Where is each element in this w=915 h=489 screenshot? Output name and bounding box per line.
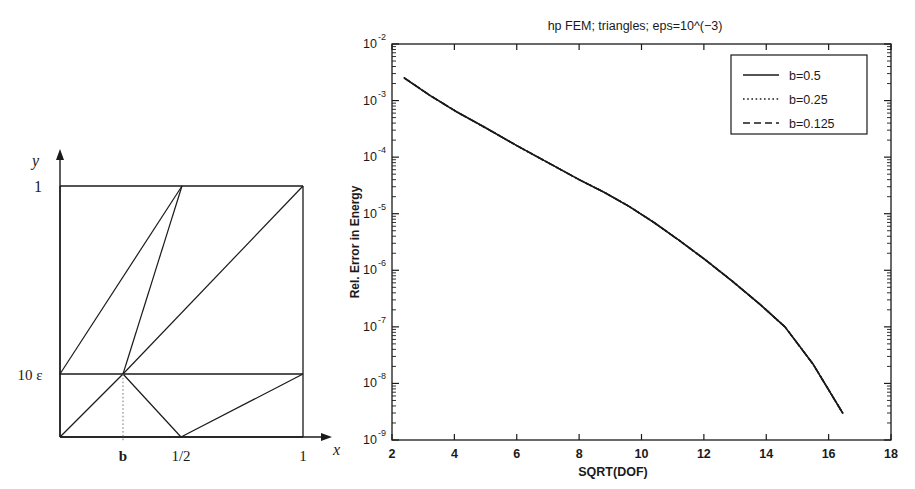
chart-y-tick-label: 10 <box>363 94 377 108</box>
mesh-x-axis-label: x <box>332 441 340 458</box>
chart-legend-label: b=0.25 <box>789 93 828 107</box>
mesh-y-axis-arrowhead <box>56 149 64 160</box>
chart-x-tick-label: 6 <box>513 447 520 461</box>
convergence-chart-panel: hp FEM; triangles; eps=10^(−3) SQRT(DOF)… <box>345 0 915 489</box>
chart-x-tick-label: 14 <box>759 447 773 461</box>
chart-y-tick-exponent: -6 <box>378 258 386 268</box>
mesh-diagonal-bmid <box>123 186 182 374</box>
chart-y-tick-label: 10 <box>363 207 377 221</box>
chart-y-axis-label: Rel. Error in Energy <box>348 185 362 298</box>
mesh-y-tick-label-one: 1 <box>34 178 42 195</box>
mesh-x-axis-arrowhead <box>321 433 332 441</box>
chart-y-tick-label: 10 <box>363 37 377 51</box>
mesh-lower-diagonal-1 <box>60 374 123 437</box>
mesh-diagonal-left <box>60 186 182 374</box>
chart-x-tick-label: 10 <box>635 447 649 461</box>
figure-root: y x 1 10 ε b 1/2 1 hp FEM; triangles; ep… <box>0 0 915 489</box>
mesh-y-axis-label: y <box>30 152 40 170</box>
chart-legend-label: b=0.5 <box>789 69 821 83</box>
mesh-diagram-svg: y x 1 10 ε b 1/2 1 <box>0 0 345 489</box>
chart-x-tick-labels: 24681012141618 <box>389 447 898 461</box>
chart-x-tick-label: 4 <box>451 447 458 461</box>
chart-y-tick-exponent: -4 <box>378 145 386 155</box>
chart-x-tick-label: 8 <box>576 447 583 461</box>
chart-x-tick-label: 16 <box>822 447 836 461</box>
chart-y-tick-exponent: -3 <box>378 89 386 99</box>
chart-y-tick-label: 10 <box>363 433 377 447</box>
mesh-x-tick-label-half: 1/2 <box>171 448 190 464</box>
mesh-lower-diagonal-2 <box>123 374 181 437</box>
chart-legend-label: b=0.125 <box>789 117 835 131</box>
chart-y-tick-label: 10 <box>363 320 377 334</box>
convergence-chart-svg: hp FEM; triangles; eps=10^(−3) SQRT(DOF)… <box>345 0 915 489</box>
mesh-upper-triangulation <box>60 186 303 374</box>
chart-y-tick-exponent: -5 <box>378 202 386 212</box>
mesh-axes <box>56 149 332 441</box>
mesh-diagonal-right <box>123 186 303 374</box>
chart-y-tick-exponent: -7 <box>378 315 386 325</box>
chart-y-tick-exponent: -8 <box>378 371 386 381</box>
chart-x-axis-label: SQRT(DOF) <box>578 465 647 479</box>
mesh-lower-diagonal-3 <box>181 374 303 437</box>
mesh-diagram-panel: y x 1 10 ε b 1/2 1 <box>0 0 345 489</box>
chart-y-tick-label: 10 <box>363 376 377 390</box>
chart-title: hp FEM; triangles; eps=10^(−3) <box>548 19 723 33</box>
chart-legend: b=0.5b=0.25b=0.125 <box>731 55 867 134</box>
mesh-lower-triangulation <box>60 374 303 437</box>
mesh-x-tick-label-one: 1 <box>299 448 307 464</box>
chart-y-tick-label: 10 <box>363 150 377 164</box>
chart-y-tick-exponent: -2 <box>378 32 386 42</box>
chart-x-tick-label: 18 <box>884 447 898 461</box>
chart-y-tick-labels: 10-210-310-410-510-610-710-810-9 <box>363 32 386 447</box>
mesh-y-tick-label-ten-eps: 10 ε <box>17 367 42 383</box>
chart-y-tick-label: 10 <box>363 263 377 277</box>
chart-x-tick-label: 2 <box>389 447 396 461</box>
chart-x-tick-label: 12 <box>697 447 711 461</box>
chart-y-tick-exponent: -9 <box>378 428 386 438</box>
mesh-x-tick-label-b: b <box>119 448 127 464</box>
